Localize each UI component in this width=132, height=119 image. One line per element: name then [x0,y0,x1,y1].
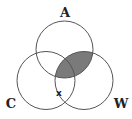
venn-diagram: A C W x [0,0,132,119]
x-mark: x [56,88,62,98]
label-w: W [113,96,129,111]
label-a: A [59,5,71,20]
label-c: C [6,96,16,111]
circle-c [17,52,75,110]
